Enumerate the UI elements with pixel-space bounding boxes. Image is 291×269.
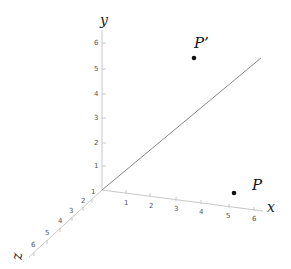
- 3d-coordinate-diagram: 1 2 3 4 5 6 y 1 2 3 4 5 6 x 1 2 3 4 5 6 …: [0, 0, 291, 269]
- point-p-prime-label: P’: [193, 34, 209, 52]
- y-tick-3: 3: [94, 114, 98, 122]
- y-tick-4: 4: [94, 90, 99, 98]
- x-tick-4: 4: [199, 208, 204, 216]
- z-tick-2: 2: [81, 197, 85, 205]
- y-tick-2: 2: [94, 139, 98, 147]
- z-tick-3: 3: [69, 207, 73, 215]
- x-tick-1: 1: [124, 199, 128, 207]
- x-tick-2: 2: [149, 202, 153, 210]
- y-axis-label: y: [99, 12, 109, 28]
- z-axis: [29, 190, 102, 257]
- z-tick-5: 5: [45, 229, 49, 237]
- x-axis-label: x: [267, 199, 275, 215]
- z-tick-6: 6: [31, 241, 36, 249]
- diagonal-line: [102, 58, 261, 190]
- point-p-prime-dot: [192, 56, 197, 61]
- z-axis-label: z: [9, 252, 25, 261]
- y-tick-6: 6: [94, 39, 99, 47]
- point-p-label: P: [251, 176, 263, 194]
- x-tick-5: 5: [226, 212, 230, 220]
- z-ticks: [34, 199, 92, 256]
- y-tick-5: 5: [94, 65, 98, 73]
- y-tick-1: 1: [94, 162, 98, 170]
- z-tick-4: 4: [58, 217, 63, 225]
- y-ticks: [102, 43, 106, 166]
- point-p-dot: [232, 191, 237, 196]
- x-tick-6: 6: [252, 215, 257, 223]
- x-tick-3: 3: [174, 205, 178, 213]
- z-tick-1: 1: [91, 188, 95, 196]
